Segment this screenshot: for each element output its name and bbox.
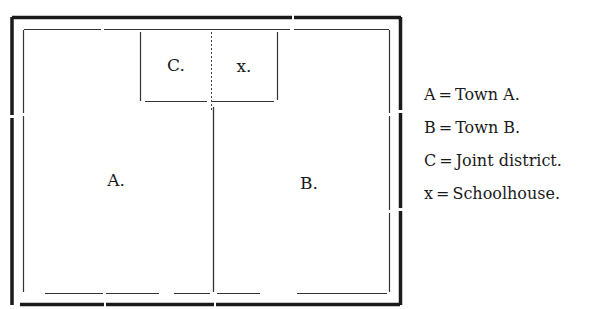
legend-key: A: [424, 84, 436, 106]
legend-item-town-b: B=Town B.: [424, 117, 562, 150]
legend: A=Town A. B=Town B. C=Joint district. x=…: [424, 84, 562, 216]
legend-description: Joint district.: [456, 151, 562, 170]
legend-equals: =: [436, 84, 455, 106]
district-map: [0, 0, 410, 309]
inner-frame: [24, 30, 390, 294]
region-label-a: A.: [107, 172, 125, 189]
outer-frame: [12, 17, 401, 305]
legend-equals: =: [436, 150, 455, 172]
region-label-x: x.: [237, 58, 252, 75]
legend-item-town-a: A=Town A.: [424, 84, 562, 117]
legend-equals: =: [436, 117, 455, 139]
legend-key: x: [424, 183, 433, 205]
legend-key: C: [424, 150, 436, 172]
legend-description: Schoolhouse.: [452, 184, 560, 203]
region-label-b: B.: [300, 175, 318, 192]
joint-district-box: [141, 32, 278, 102]
legend-item-schoolhouse: x=Schoolhouse.: [424, 183, 562, 216]
legend-description: Town A.: [455, 85, 520, 104]
legend-description: Town B.: [455, 118, 520, 137]
region-label-c: C.: [167, 57, 185, 74]
legend-key: B: [424, 117, 436, 139]
legend-equals: =: [433, 183, 452, 205]
legend-item-joint-district: C=Joint district.: [424, 150, 562, 183]
